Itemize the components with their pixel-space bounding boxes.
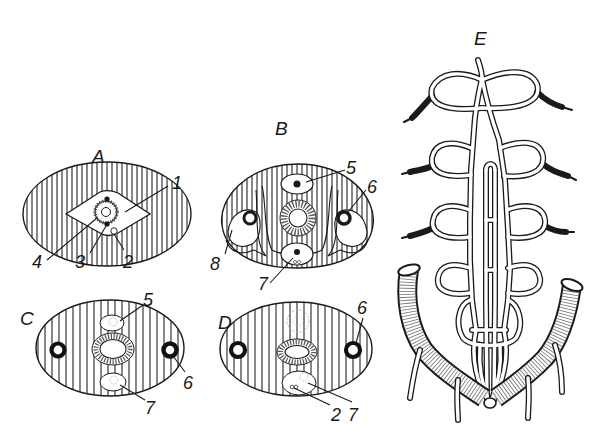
duct-left-d (231, 343, 245, 357)
anatomy-figure: A 1 2 3 4 B (0, 0, 596, 444)
label-2: 2 (122, 252, 133, 272)
label-8: 8 (210, 254, 220, 274)
duct-left (244, 212, 256, 224)
label-7-d: 7 (348, 405, 359, 425)
neural-tube-d (285, 346, 309, 359)
label-3: 3 (75, 252, 85, 272)
duct-left-c (52, 344, 65, 357)
label-4: 4 (32, 252, 42, 272)
panel-d: D 6 2 7 (218, 298, 372, 425)
panel-c: C 5 6 7 (20, 290, 194, 418)
label-1: 1 (172, 173, 182, 193)
neural-tube-b (289, 209, 307, 227)
label-5-c: 5 (143, 290, 154, 310)
label-5: 5 (346, 158, 357, 178)
label-6: 6 (367, 177, 378, 197)
vessel-dot-top (104, 196, 109, 201)
neural-tube-c (100, 340, 126, 359)
label-6-d: 6 (357, 298, 368, 318)
structure-7-d (282, 371, 316, 395)
structure-7-c (100, 373, 126, 391)
small-duct (111, 228, 117, 234)
panel-e: E (397, 28, 584, 420)
panel-label-e: E (474, 28, 487, 49)
panel-label-b: B (275, 118, 288, 139)
label-6-c: 6 (183, 373, 194, 393)
duct-right-d (346, 343, 360, 357)
panel-b: B 5 6 7 8 (210, 118, 378, 294)
label-7-c: 7 (145, 398, 156, 418)
structure-5-c (100, 315, 124, 331)
label-7: 7 (258, 274, 269, 294)
duct-right-c (164, 344, 177, 357)
panel-label-c: C (20, 308, 34, 329)
label-2-d: 2 (330, 405, 341, 425)
duct-right (338, 212, 350, 224)
panel-a: A 1 2 3 4 (23, 146, 191, 272)
vessel-dot-bottom (104, 221, 109, 226)
